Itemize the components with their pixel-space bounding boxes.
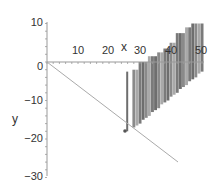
- x-tick-40: 40: [165, 44, 177, 56]
- bar: [182, 33, 185, 87]
- bar: [151, 56, 154, 112]
- y-tick-minus-10: −10: [24, 94, 43, 106]
- x-tick-10: 10: [72, 44, 84, 56]
- bar: [136, 70, 139, 126]
- x-axis-label: x: [121, 40, 127, 54]
- bar: [163, 49, 166, 103]
- bar: [142, 62, 145, 120]
- plot-area: 10 20 x 30 40 50 10 0 −10 y −20 −30: [0, 0, 218, 195]
- y-tick-10: 10: [31, 16, 43, 28]
- x-tick-50: 50: [195, 44, 207, 56]
- y-tick-0: 0: [37, 60, 43, 72]
- x-tick-20: 20: [102, 44, 114, 56]
- y-tick-minus-20: −20: [24, 132, 43, 144]
- bar: [145, 62, 148, 118]
- bar: [167, 49, 170, 101]
- bar: [188, 27, 191, 81]
- bar-group: [126, 24, 203, 132]
- y-axis-label: y: [12, 112, 18, 126]
- y-minor-ticks: [45, 24, 47, 178]
- data-point: [123, 129, 127, 133]
- bar: [160, 52, 163, 104]
- bar: [185, 27, 188, 85]
- bar: [139, 62, 142, 124]
- bar: [148, 56, 151, 116]
- bar: [157, 52, 160, 108]
- bar: [154, 56, 157, 110]
- y-tick-minus-30: −30: [24, 170, 43, 182]
- bar: [191, 24, 194, 80]
- bar: [179, 33, 182, 89]
- bar: [132, 70, 135, 128]
- x-tick-30: 30: [134, 44, 146, 56]
